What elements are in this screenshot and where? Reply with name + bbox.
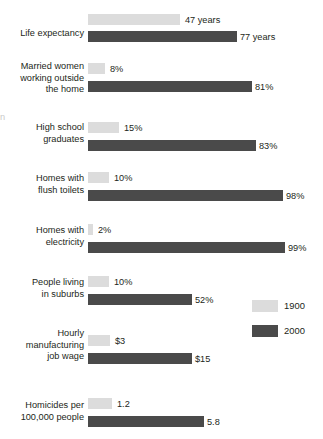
bar-1900 [88,122,119,133]
bar-value-1900: 15% [124,122,142,133]
bar-2000 [88,416,204,427]
bar-value-2000: 99% [288,242,306,253]
category-label: Homicides per 100,000 people [0,400,84,423]
bar-value-1900: 10% [114,276,132,287]
comparison-bar-chart: n Life expectancy 47 years 77 years Marr… [0,0,323,439]
category-label: Life expectancy [0,28,84,40]
bar-1900 [88,224,93,235]
category-label: Homes with electricity [0,225,84,248]
bar-value-1900: $3 [115,335,125,346]
bar-value-2000: 5.8 [207,416,220,427]
bar-value-2000: 98% [286,190,304,201]
bar-2000 [88,140,256,151]
legend-label-2000: 2000 [284,325,305,337]
category-label: People living in suburbs [0,277,84,300]
category-label: Hourly manufacturing job wage [0,328,84,363]
bar-value-1900: 47 years [185,14,220,25]
bar-1900 [88,398,112,409]
bar-2000 [88,242,285,253]
legend-swatch-2000 [252,325,278,337]
bar-value-2000: 52% [195,294,213,305]
legend-swatch-1900 [252,300,278,312]
bar-1900 [88,335,110,346]
bar-value-1900: 10% [114,172,132,183]
bar-value-2000: 77 years [240,31,275,42]
bar-2000 [88,353,192,364]
bar-value-1900: 2% [98,224,111,235]
bar-2000 [88,31,237,42]
bar-2000 [88,294,192,305]
bar-2000 [88,81,252,92]
bar-1900 [88,14,180,25]
category-label: Married women working outside the home [0,61,84,96]
bar-value-2000: 81% [255,81,273,92]
bar-value-2000: $15 [195,353,210,364]
bar-1900 [88,276,109,287]
bar-1900 [88,63,105,74]
legend-label-1900: 1900 [284,300,305,312]
bar-2000 [88,190,283,201]
bar-value-1900: 8% [110,63,123,74]
bar-value-1900: 1.2 [117,398,130,409]
category-label: Homes with flush toilets [0,173,84,196]
category-label: High school graduates [0,122,84,145]
bar-value-2000: 83% [259,140,277,151]
bar-1900 [88,172,109,183]
